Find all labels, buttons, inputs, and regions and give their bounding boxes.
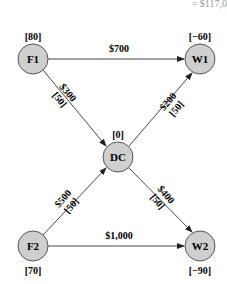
partial-total-text: = $117,0 [192, 0, 227, 9]
node-w1-supply: [−60] [189, 31, 211, 42]
node-w2: W2 [−90] [185, 231, 215, 276]
node-dc: DC [0] [103, 129, 133, 172]
node-w1: W1 [−60] [185, 31, 215, 74]
network-diagram: = $117,0 $700 $1,000 $300 [50] $200 [50]… [0, 0, 227, 284]
node-f1-label: F1 [27, 53, 39, 65]
node-dc-label: DC [110, 151, 126, 163]
node-w2-label: W2 [192, 240, 209, 252]
node-w2-supply: [−90] [189, 265, 211, 276]
node-dc-supply: [0] [112, 129, 124, 140]
node-f1-supply: [80] [25, 31, 42, 42]
edge-f2-w2-cost: $1,000 [105, 230, 133, 241]
edge-f1-w1-cost: $700 [109, 43, 129, 54]
node-f2-supply: [70] [25, 265, 42, 276]
edge-f1-dc [43, 70, 106, 146]
node-f2-label: F2 [27, 240, 40, 252]
node-w1-label: W1 [192, 53, 209, 65]
node-f2: F2 [70] [18, 231, 48, 276]
node-f1: F1 [80] [18, 31, 48, 74]
